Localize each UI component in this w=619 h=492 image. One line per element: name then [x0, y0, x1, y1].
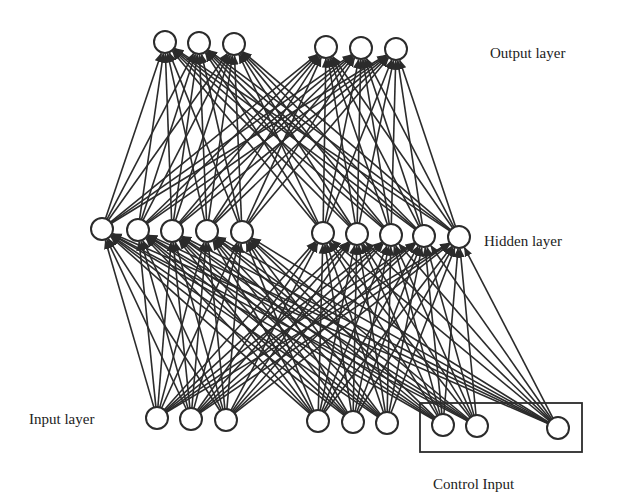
output-node-6 [385, 38, 407, 60]
hidden-node-3 [161, 220, 183, 242]
hidden-node-10 [448, 226, 470, 248]
output-node-3 [223, 33, 245, 55]
input-node-1 [146, 407, 168, 429]
control-node-3 [547, 417, 569, 439]
hidden-node-8 [380, 224, 402, 246]
input-node-6 [376, 412, 398, 434]
hidden-node-9 [413, 225, 435, 247]
hidden-node-1 [91, 218, 113, 240]
control-node-2 [466, 415, 488, 437]
input-node-4 [307, 410, 329, 432]
control-node-1 [432, 414, 454, 436]
hidden-node-7 [346, 223, 368, 245]
connection-arrow [431, 246, 552, 419]
hidden-node-2 [127, 219, 149, 241]
connection-arrow [333, 57, 453, 228]
connection-arrow [400, 60, 456, 226]
input-node-2 [180, 408, 202, 430]
output-node-1 [154, 31, 176, 53]
connection-arrow [146, 55, 318, 222]
hidden-node-5 [231, 221, 253, 243]
hidden-layer-label: Hidden layer [484, 233, 562, 250]
input-node-5 [342, 411, 364, 433]
output-node-2 [188, 32, 210, 54]
output-layer-label: Output layer [490, 45, 565, 62]
control-input-label: Control Input [433, 476, 514, 492]
connection-arrow [247, 58, 322, 222]
connection-arrow [165, 54, 171, 220]
hidden-node-6 [312, 222, 334, 244]
output-node-4 [315, 36, 337, 58]
hidden-node-4 [196, 220, 218, 242]
input-node-3 [215, 409, 237, 431]
connection-arrow [460, 249, 476, 415]
input-layer-label: Input layer [29, 411, 94, 428]
output-node-5 [350, 37, 372, 59]
